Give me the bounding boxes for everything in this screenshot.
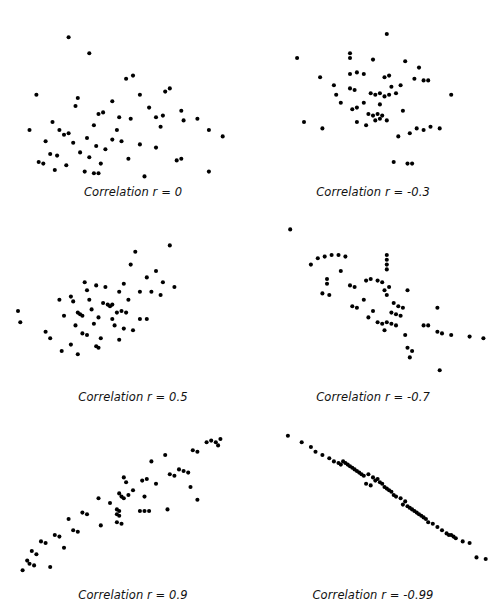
scatter-point: [44, 330, 48, 334]
scatter-point: [385, 263, 389, 267]
scatter-point: [216, 443, 220, 447]
scatter-point: [179, 109, 183, 113]
scatter-point: [44, 541, 48, 545]
scatter-point: [378, 102, 382, 106]
scatter-point: [168, 243, 172, 247]
scatter-point: [387, 74, 391, 78]
scatter-point: [323, 255, 327, 259]
scatter-point: [69, 343, 73, 347]
scatter-point: [431, 522, 435, 526]
scatter-point: [387, 285, 391, 289]
scatter-point: [309, 263, 313, 267]
scatter-point: [426, 323, 430, 327]
scatter-point: [154, 482, 158, 486]
scatter-point: [484, 557, 488, 561]
scatter-point: [99, 336, 103, 340]
scatter-point: [405, 288, 409, 292]
scatter-point: [131, 488, 135, 492]
scatter-point: [108, 501, 112, 505]
scatter-point: [179, 157, 183, 161]
scatter-point: [209, 439, 213, 443]
scatter-point: [364, 123, 368, 127]
scatter-point: [385, 253, 389, 257]
scatter-point: [60, 349, 64, 353]
scatter-point: [399, 83, 403, 87]
scatter-point: [364, 279, 368, 283]
scatter-point: [131, 328, 135, 332]
scatter-point: [376, 279, 380, 283]
scatter-point: [83, 170, 87, 174]
scatter-point: [362, 101, 366, 105]
scatter-point: [64, 163, 68, 167]
scatter-point: [428, 125, 432, 129]
scatter-points-r0-9: [18, 423, 248, 583]
scatter-point: [62, 314, 66, 318]
scatter-point: [392, 160, 396, 164]
scatter-point: [195, 450, 199, 454]
scatter-point: [16, 309, 20, 313]
scatter-point: [405, 162, 409, 166]
scatter-point: [67, 131, 71, 135]
scatter-point: [408, 355, 412, 359]
scatter-point: [382, 75, 386, 79]
scatter-points-r0-5: [18, 223, 248, 383]
plot-area-r-0-99: [258, 423, 488, 583]
scatter-point: [21, 568, 25, 572]
scatter-point: [325, 282, 329, 286]
scatter-point: [369, 277, 373, 281]
scatter-point: [385, 118, 389, 122]
scatter-point: [348, 283, 352, 287]
scatter-point: [62, 546, 66, 550]
scatter-point: [392, 301, 396, 305]
scatter-point: [85, 512, 89, 516]
scatter-point: [126, 298, 130, 302]
scatter-point: [159, 293, 163, 297]
scatter-point: [117, 115, 121, 119]
scatter-point: [405, 346, 409, 350]
scatter-panel-r-0-3: [258, 18, 488, 178]
scatter-point: [366, 472, 370, 476]
scatter-point: [449, 333, 453, 337]
scatter-point: [27, 128, 31, 132]
scatter-point: [396, 134, 400, 138]
scatter-point: [348, 51, 352, 55]
scatter-point: [207, 128, 211, 132]
scatter-point: [362, 72, 366, 76]
scatter-point: [334, 93, 338, 97]
scatter-point: [122, 327, 126, 331]
scatter-point: [316, 256, 320, 260]
scatter-points-r-0-3: [258, 18, 488, 178]
scatter-point: [366, 315, 370, 319]
scatter-point: [403, 59, 407, 63]
scatter-point: [380, 280, 384, 284]
scatter-point: [288, 227, 292, 231]
scatter-point: [339, 101, 343, 105]
scatter-point: [142, 509, 146, 513]
scatter-point: [80, 331, 84, 335]
scatter-point: [378, 117, 382, 121]
scatter-point: [188, 485, 192, 489]
scatter-point: [149, 459, 153, 463]
scatter-point: [129, 263, 133, 267]
scatter-point: [138, 509, 142, 513]
plot-area-r0-5: [18, 223, 248, 383]
scatter-point: [191, 448, 195, 452]
scatter-point: [85, 333, 89, 337]
scatter-point: [48, 565, 52, 569]
scatter-point: [422, 128, 426, 132]
scatter-point: [55, 154, 59, 158]
scatter-point: [399, 314, 403, 318]
scatter-point: [389, 311, 393, 315]
scatter-point: [73, 104, 77, 108]
scatter-point: [76, 352, 80, 356]
scatter-panel-r0-9: [18, 423, 248, 583]
scatter-point: [362, 298, 366, 302]
scatter-point: [161, 280, 165, 284]
scatter-point: [426, 520, 430, 524]
scatter-point: [53, 533, 57, 537]
scatter-point: [140, 479, 144, 483]
scatter-point: [348, 72, 352, 76]
scatter-point: [389, 85, 393, 89]
scatter-point: [286, 434, 290, 438]
scatter-point: [101, 301, 105, 305]
